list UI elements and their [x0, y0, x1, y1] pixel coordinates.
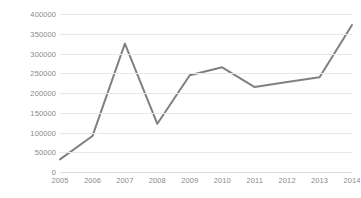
x-axis-tick-label: 2012: [279, 176, 296, 185]
x-axis-tick-label: 2009: [181, 176, 198, 185]
gridline: [60, 113, 352, 114]
y-axis-tick-label: 250000: [0, 69, 56, 78]
y-axis-tick-label: 100000: [0, 128, 56, 137]
gridline: [60, 54, 352, 55]
y-axis-tick-labels: 0500001000001500002000002500003000003500…: [0, 0, 56, 198]
x-axis-tick-label: 2010: [214, 176, 231, 185]
gridline: [60, 93, 352, 94]
x-axis-tick-label: 2008: [149, 176, 166, 185]
plot-area: [60, 14, 352, 172]
y-axis-tick-label: 400000: [0, 10, 56, 19]
line-chart: 0500001000001500002000002500003000003500…: [0, 0, 361, 198]
y-axis-tick-label: 0: [0, 168, 56, 177]
y-axis-tick-label: 350000: [0, 29, 56, 38]
gridline: [60, 133, 352, 134]
gridline: [60, 172, 352, 173]
gridline: [60, 152, 352, 153]
x-axis-tick-label: 2014: [343, 176, 360, 185]
x-axis-tick-label: 2007: [116, 176, 133, 185]
gridline: [60, 73, 352, 74]
y-axis-tick-label: 150000: [0, 108, 56, 117]
x-axis-tick-label: 2006: [84, 176, 101, 185]
y-axis-tick-label: 300000: [0, 49, 56, 58]
gridline: [60, 34, 352, 35]
x-axis-tick-label: 2005: [51, 176, 68, 185]
x-axis-tick-label: 2013: [311, 176, 328, 185]
x-axis-tick-label: 2011: [246, 176, 263, 185]
y-axis-tick-label: 50000: [0, 148, 56, 157]
x-axis-tick-labels: 2005200620072008200920102011201220132014: [60, 176, 352, 192]
gridline: [60, 14, 352, 15]
y-axis-tick-label: 200000: [0, 89, 56, 98]
